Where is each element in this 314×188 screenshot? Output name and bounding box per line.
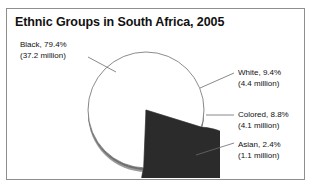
pie-svg (80, 38, 220, 178)
slice-label-black: Black, 79.4% (37.2 million) (20, 40, 67, 61)
slice-label-white-line2: (4.4 million) (238, 79, 281, 90)
slice-label-black-line2: (37.2 million) (20, 51, 67, 62)
slice-label-black-line1: Black, 79.4% (20, 40, 67, 51)
slice-label-colored-line2: (4.1 million) (238, 121, 289, 132)
slice-label-white-line1: White, 9.4% (238, 68, 281, 79)
slice-label-asian-line1: Asian, 2.4% (238, 140, 281, 151)
pie-graphic (80, 38, 220, 178)
slice-label-asian-line2: (1.1 million) (238, 151, 281, 162)
slice-label-white: White, 9.4% (4.4 million) (238, 68, 281, 89)
pie-chart-figure: Ethnic Groups in South Africa, 2005 Blac… (0, 0, 314, 188)
slice-label-colored: Colored, 8.8% (4.1 million) (238, 110, 289, 131)
slice-label-colored-line1: Colored, 8.8% (238, 110, 289, 121)
slice-label-asian: Asian, 2.4% (1.1 million) (238, 140, 281, 161)
chart-title: Ethnic Groups in South Africa, 2005 (15, 15, 224, 29)
